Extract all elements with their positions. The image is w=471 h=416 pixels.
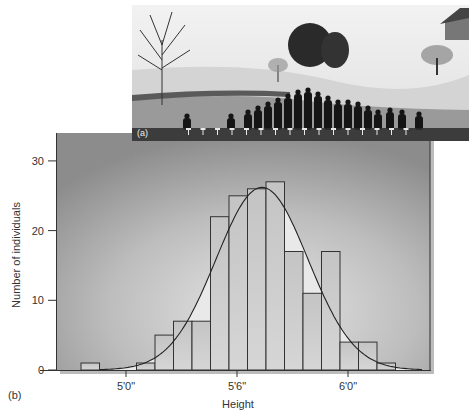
y-tick-label: 30 [32,155,44,167]
x-tick-label: 5'6" [228,380,246,392]
y-axis-title: Number of individuals [10,202,22,308]
histogram-bar [137,363,156,370]
photograph-panel-a: (a) [132,5,469,141]
histogram-bar [303,293,322,370]
x-axis: 5'0"5'6"6'0" Height [40,371,431,411]
figure: 0102030 Number of individuals 5'0"5'6"6'… [0,0,471,416]
histogram-bar [266,182,285,370]
histogram-bar [155,335,174,370]
panel-a-label: (a) [137,128,148,138]
histogram-bar [211,217,230,370]
x-tick-label: 6'0" [339,380,357,392]
histogram-bar [285,252,304,371]
x-axis-title: Height [222,398,254,410]
y-axis: 0102030 Number of individuals [10,133,57,376]
chart-panel [57,133,434,374]
y-tick-label: 20 [32,225,44,237]
histogram-bar [192,321,211,370]
histogram-bar [340,342,359,370]
histogram-bar [359,342,378,370]
x-tick-label: 5'0" [117,380,135,392]
y-tick-label: 10 [32,294,44,306]
panel-b-label: (b) [8,389,21,401]
histogram-bar [81,363,100,370]
histogram-bar [248,189,267,370]
